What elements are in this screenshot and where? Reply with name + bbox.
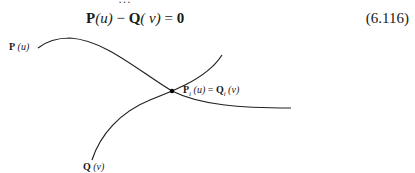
label-intersection: Pi (u) = Qi (v) <box>183 84 239 98</box>
label-Q-v: Q (v) <box>83 161 104 172</box>
label-P-u: P (u) <box>9 41 29 52</box>
intersection-point <box>170 89 174 93</box>
curve-Q <box>92 55 222 160</box>
curve-P <box>38 38 291 108</box>
